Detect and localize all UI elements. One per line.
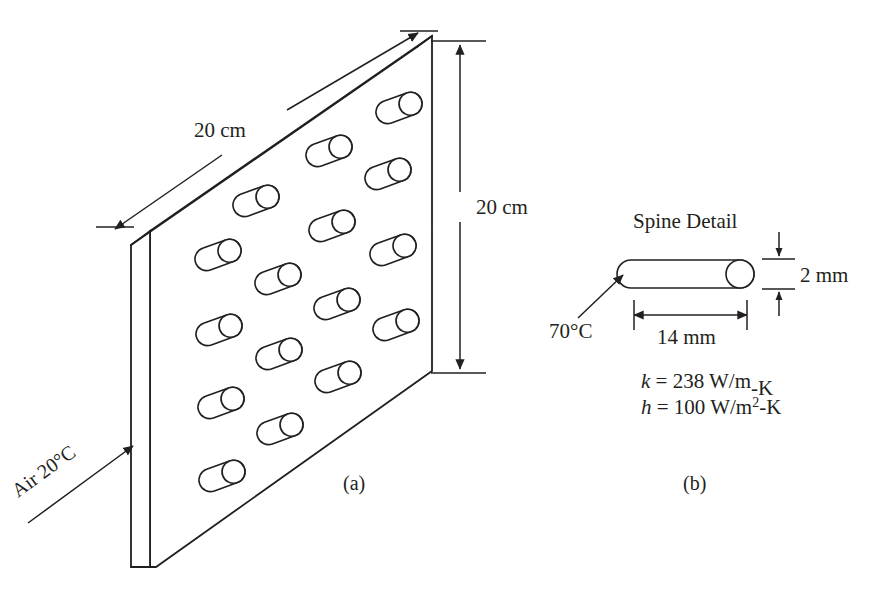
figure-container: 20 cm 20 cm Air 20°C (a) Spine Detail: [0, 0, 869, 609]
h-value-tail: -K: [759, 395, 781, 419]
spine-cylinder: [617, 260, 754, 288]
dimension-width-label: 20 cm: [194, 118, 246, 142]
pin-fin-figure: 20 cm 20 cm Air 20°C (a) Spine Detail: [0, 0, 869, 609]
convection-coefficient-line: h = 100 W/m2-K: [641, 395, 781, 419]
plate-thickness-strip: [131, 231, 150, 567]
spine-detail-title: Spine Detail: [633, 209, 738, 233]
h-value-main: 100 W/m: [674, 395, 752, 419]
dimension-length-label: 14 mm: [657, 325, 716, 349]
h-equals: =: [652, 395, 674, 419]
k-equals: =: [650, 369, 672, 393]
base-temp-label: 70°C: [549, 319, 592, 343]
dimension-height-label: 20 cm: [476, 195, 528, 219]
spine-end-face: [726, 260, 754, 288]
dimension-diameter-label: 2 mm: [800, 263, 848, 287]
h-value-superscript: 2: [752, 395, 759, 410]
h-symbol: h: [641, 395, 652, 419]
k-value-main: 238 W/m: [673, 369, 751, 393]
panel-b-caption: (b): [683, 472, 706, 495]
panel-a-caption: (a): [343, 472, 365, 495]
